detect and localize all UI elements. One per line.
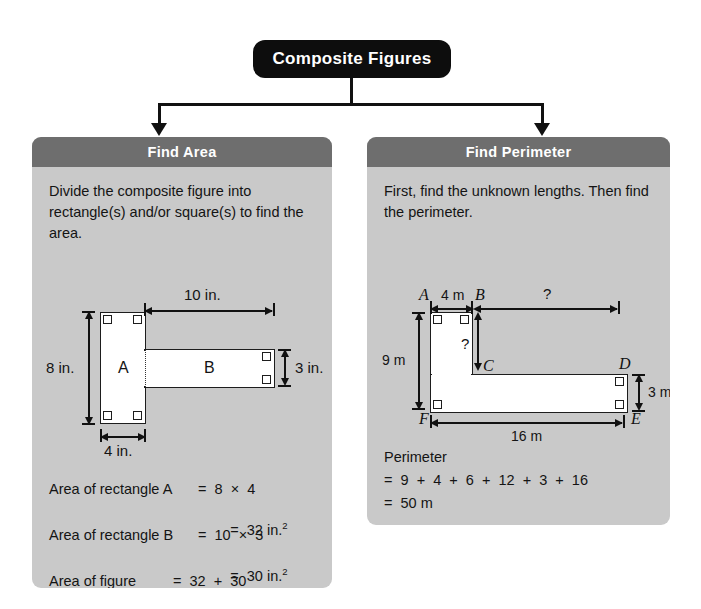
dim-line-bottom <box>434 422 622 424</box>
dim-tick <box>100 429 102 442</box>
dim-tick <box>144 429 146 442</box>
dim-arrow-down-icon <box>474 363 482 371</box>
dim-line-width-b <box>148 310 272 312</box>
page-title-text: Composite Figures <box>272 49 431 69</box>
connector-right-arrowhead-icon <box>534 123 550 136</box>
perimeter-figure: A B C D E F 4 m ? 9 m <box>367 167 670 447</box>
dim-label-width-b: 10 in. <box>184 286 221 303</box>
panel-find-perimeter-header: Find Perimeter <box>367 137 670 167</box>
panel-find-perimeter: Find Perimeter First, find the unknown l… <box>367 137 670 525</box>
perimeter-calc-line-1: Perimeter <box>384 449 447 465</box>
right-angle-marker <box>103 411 112 420</box>
right-angle-marker <box>103 315 112 324</box>
dim-tick <box>618 301 620 314</box>
dim-tick <box>273 303 275 316</box>
right-angle-marker <box>615 400 624 409</box>
right-angle-marker <box>433 315 442 324</box>
dim-tick <box>412 312 425 314</box>
dim-tick <box>278 385 291 387</box>
dim-label-top-unknown: ? <box>543 285 551 302</box>
rectangle-a-label: A <box>118 359 129 377</box>
area-calc-line-1-label: Area of rectangle A <box>49 481 172 497</box>
area-calc-line-2-exponent: 2 <box>282 520 287 531</box>
dim-line-left <box>418 317 420 406</box>
dim-arrow-right-icon <box>610 305 618 313</box>
dim-line-top-known <box>434 308 470 310</box>
dim-label-height-a: 8 in. <box>46 359 74 376</box>
perimeter-calc-line-2: = 9 + 4 + 6 + 12 + 3 + 16 <box>384 472 588 488</box>
right-angle-marker <box>433 400 442 409</box>
vertex-label-f: F <box>419 410 429 428</box>
right-angle-marker <box>460 315 469 324</box>
dim-tick <box>430 415 432 428</box>
area-calc-line-5-label: Area of figure <box>49 573 136 588</box>
dim-line-top-unknown <box>477 308 617 310</box>
right-angle-marker <box>133 411 142 420</box>
perimeter-union-seam-cover <box>432 373 471 378</box>
dim-tick <box>430 301 432 314</box>
dim-tick <box>412 408 425 410</box>
dim-arrow-right-icon <box>265 307 273 315</box>
dim-label-inner-unknown: ? <box>461 335 469 352</box>
dim-tick <box>82 423 95 425</box>
panel-find-perimeter-body: First, find the unknown lengths. Then fi… <box>367 167 670 525</box>
panel-find-perimeter-title: Find Perimeter <box>466 144 572 160</box>
dim-line-width-a <box>104 436 142 438</box>
panel-find-area-header: Find Area <box>32 137 332 167</box>
dim-arrow-up-icon <box>474 312 482 320</box>
perimeter-horizontal-leg-shape <box>430 374 628 413</box>
right-angle-marker <box>133 315 142 324</box>
dim-line-inner-unknown <box>477 317 479 367</box>
dim-label-top-known: 4 m <box>441 287 464 303</box>
dim-label-right: 3 m <box>648 384 670 400</box>
panel-find-area-title: Find Area <box>147 144 216 160</box>
dim-line-height-a <box>88 316 90 421</box>
area-calc-line-5-expr: = 32 + 30 <box>173 573 246 588</box>
panel-find-area: Find Area Divide the composite figure in… <box>32 137 332 588</box>
connector-left-drop <box>158 103 161 125</box>
vertex-label-d: D <box>619 355 631 373</box>
dim-tick <box>632 374 645 376</box>
dim-label-width-a: 4 in. <box>104 442 132 459</box>
dim-arrow-right-icon <box>615 419 623 427</box>
worksheet-canvas: Composite Figures Find Area Divide the c… <box>0 0 701 609</box>
dim-label-bottom: 16 m <box>511 428 542 444</box>
panel-find-area-body: Divide the composite figure into rectang… <box>32 167 332 588</box>
area-calc-line-4-exponent: 2 <box>282 566 287 577</box>
vertex-label-e: E <box>631 410 641 428</box>
connector-stem <box>350 78 353 105</box>
vertex-label-a: A <box>419 286 429 304</box>
right-angle-marker <box>615 377 624 386</box>
right-angle-marker <box>262 352 271 361</box>
dim-label-height-b: 3 in. <box>295 359 323 376</box>
connector-right-drop <box>541 103 544 125</box>
right-angle-marker <box>262 375 271 384</box>
dim-tick <box>278 349 291 351</box>
connector-horizontal-bar <box>158 103 544 106</box>
dim-tick <box>144 303 146 316</box>
vertex-label-c: C <box>483 357 494 375</box>
area-calc-line-3-expr: = 10 × 3 <box>198 527 263 543</box>
vertex-label-b: B <box>475 286 485 304</box>
divider-dotted-line <box>145 350 146 387</box>
area-figure: 10 in. 8 in. 4 in. <box>32 167 332 457</box>
dim-tick <box>632 410 645 412</box>
connector-left-arrowhead-icon <box>151 123 167 136</box>
dim-tick <box>82 311 95 313</box>
dim-label-left: 9 m <box>382 352 405 368</box>
perimeter-calc-line-3: = 50 m <box>384 495 433 511</box>
area-calc-line-1-expr: = 8 × 4 <box>198 481 255 497</box>
rectangle-b-label: B <box>204 359 215 377</box>
dim-tick <box>623 415 625 428</box>
area-calc-line-3-label: Area of rectangle B <box>49 527 173 543</box>
page-title: Composite Figures <box>253 40 451 78</box>
